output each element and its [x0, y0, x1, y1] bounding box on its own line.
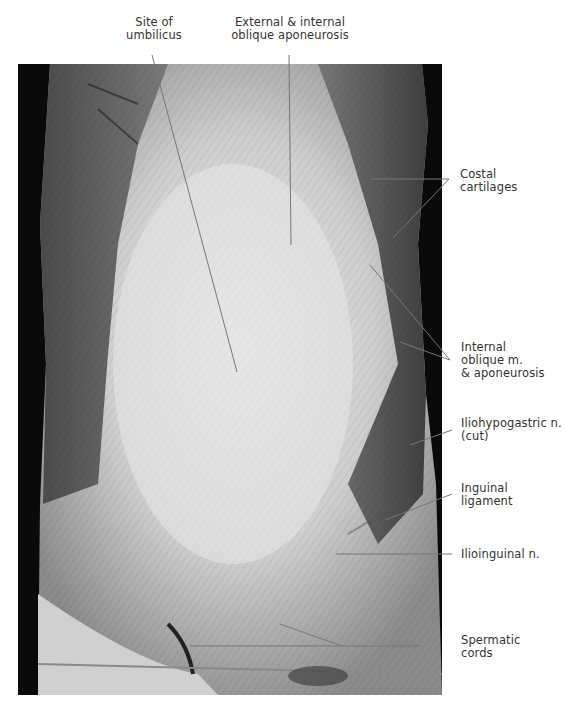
label-iliohypogastric-nerve: Iliohypogastric n. (cut) [461, 417, 562, 443]
label-ilioinguinal-nerve: Ilioinguinal n. [461, 548, 540, 561]
label-site-of-umbilicus: Site of umbilicus [118, 16, 190, 42]
leader-iliohypogastric [410, 430, 452, 445]
leader-umbilicus [152, 55, 237, 372]
label-external-internal-oblique-aponeurosis: External & internal oblique aponeurosis [220, 16, 360, 42]
label-internal-oblique: Internal oblique m. & aponeurosis [461, 341, 545, 380]
leader-inguinal [385, 494, 452, 520]
leader-aponeurosis [289, 55, 291, 245]
leader-spermatic-2 [280, 624, 342, 646]
label-costal-cartilages: Costal cartilages [460, 168, 517, 194]
label-spermatic-cords: Spermatic cords [461, 634, 520, 660]
leader-costal-2 [393, 179, 449, 238]
label-inguinal-ligament: Inguinal ligament [461, 482, 513, 508]
